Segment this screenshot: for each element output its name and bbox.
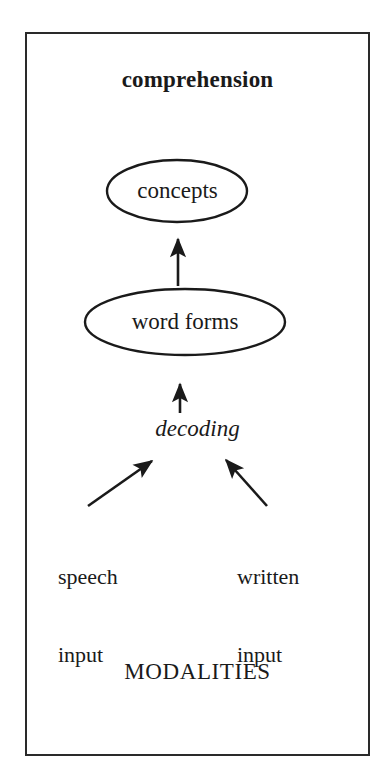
node-label-speech-input-line1: speech xyxy=(58,564,118,590)
node-label-written-input: written input xyxy=(237,512,299,720)
node-label-speech-input: speech input xyxy=(58,512,118,720)
node-label-concepts: concepts xyxy=(107,177,248,204)
figure-canvas: comprehension concepts word forms decodi… xyxy=(0,0,387,775)
figure-title: comprehension xyxy=(25,66,370,93)
node-label-written-input-line1: written xyxy=(237,564,299,590)
figure-bottom-caption: MODALITIES xyxy=(25,658,370,685)
node-label-word-forms: word forms xyxy=(85,308,285,335)
node-label-decoding: decoding xyxy=(25,415,370,442)
